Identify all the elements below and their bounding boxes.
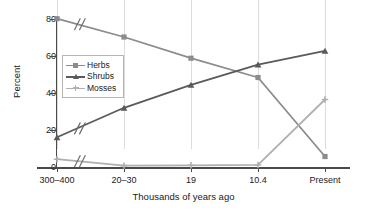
legend-item-herbs: Herbs <box>66 60 119 71</box>
legend-item-mosses: Mosses <box>66 83 119 94</box>
legend-label-shrubs: Shrubs <box>87 72 114 81</box>
plus-marker-icon <box>73 85 79 91</box>
square-marker-icon <box>73 63 78 68</box>
data-point-herbs-1 <box>121 34 126 39</box>
data-point-mosses-0 <box>54 156 60 162</box>
data-point-herbs-2 <box>188 56 193 61</box>
legend-label-herbs: Herbs <box>87 61 110 70</box>
legend-swatch-herbs <box>66 61 85 70</box>
legend-label-mosses: Mosses <box>87 84 116 93</box>
data-point-mosses-1 <box>121 162 127 168</box>
chart-legend: Herbs Shrubs Mosses <box>62 55 124 98</box>
series-layer <box>0 0 367 214</box>
data-point-mosses-2 <box>188 162 194 168</box>
chart-figure: 80 60 40 20 0 300–400 20–30 19 10.4 Pres… <box>0 0 367 214</box>
legend-item-shrubs: Shrubs <box>66 71 119 82</box>
data-point-shrubs-0 <box>54 134 61 140</box>
data-point-herbs-4 <box>322 154 327 159</box>
series-mosses <box>54 96 328 169</box>
legend-swatch-mosses <box>66 84 85 93</box>
data-point-herbs-0 <box>54 16 59 21</box>
triangle-marker-icon <box>73 74 79 79</box>
data-point-herbs-3 <box>255 75 260 80</box>
legend-swatch-shrubs <box>66 72 85 81</box>
